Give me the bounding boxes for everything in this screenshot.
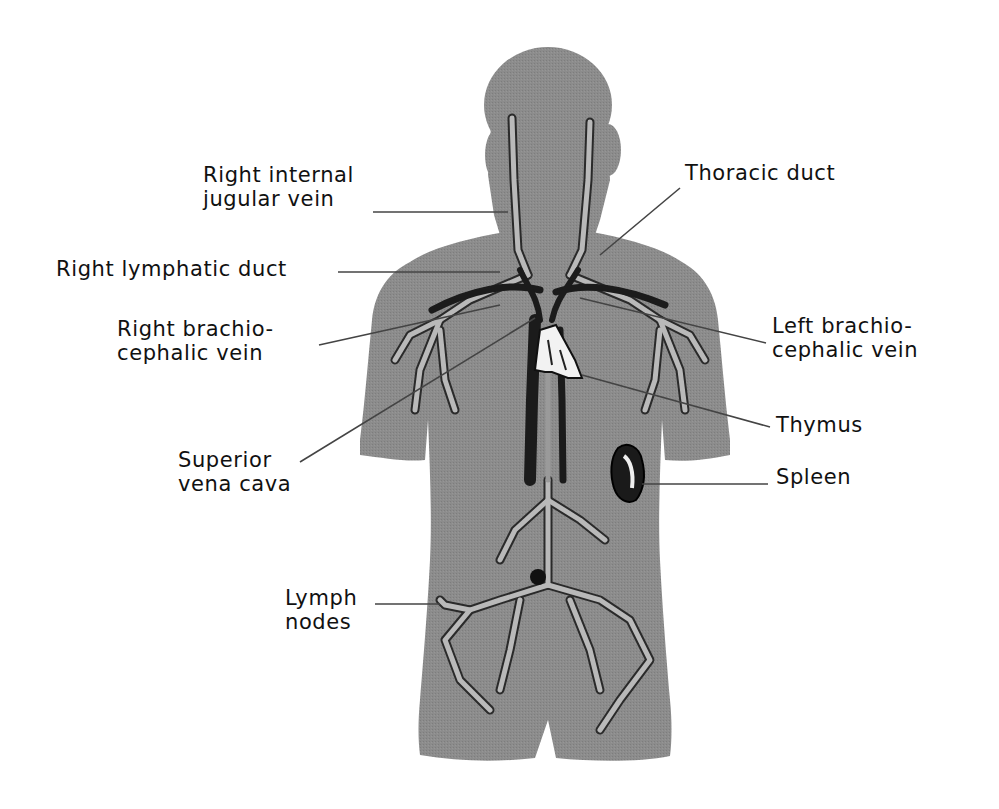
label-left-brachiocephalic-vein: Left brachio- cephalic vein <box>772 314 918 362</box>
label-right-brachiocephalic-vein: Right brachio- cephalic vein <box>117 317 274 365</box>
label-line: cephalic vein <box>772 338 918 362</box>
label-line: Lymph <box>285 586 357 610</box>
label-line: Left brachio- <box>772 314 918 338</box>
label-line: Thymus <box>776 413 863 437</box>
label-right-lymphatic-duct: Right lymphatic duct <box>56 257 287 281</box>
spleen <box>611 445 644 502</box>
label-lymph-nodes: Lymph nodes <box>285 586 357 634</box>
label-line: Thoracic duct <box>685 161 835 185</box>
label-line: Right brachio- <box>117 317 274 341</box>
cisterna-chyli <box>530 569 546 585</box>
label-line: nodes <box>285 610 357 634</box>
label-line: Right internal <box>203 163 354 187</box>
label-thoracic-duct: Thoracic duct <box>685 161 835 185</box>
label-line: vena cava <box>178 472 291 496</box>
label-line: Right lymphatic duct <box>56 257 287 281</box>
lymphatic-system-diagram: Right internal jugular vein Right lympha… <box>0 0 999 809</box>
label-line: Superior <box>178 448 291 472</box>
label-spleen: Spleen <box>776 465 851 489</box>
label-line: jugular vein <box>203 187 354 211</box>
body-illustration <box>0 0 999 809</box>
label-right-internal-jugular-vein: Right internal jugular vein <box>203 163 354 211</box>
label-line: cephalic vein <box>117 341 274 365</box>
label-line: Spleen <box>776 465 851 489</box>
label-superior-vena-cava: Superior vena cava <box>178 448 291 496</box>
label-thymus: Thymus <box>776 413 863 437</box>
